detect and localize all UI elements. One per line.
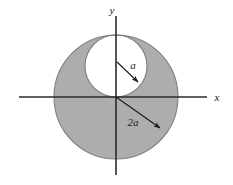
geometry-figure: y x a 2a [0, 0, 233, 185]
small-radius-label: a [130, 59, 136, 71]
x-axis-label: x [214, 91, 220, 103]
y-axis-label: y [109, 4, 115, 16]
figure-canvas: y x a 2a [0, 0, 233, 185]
large-radius-label: 2a [128, 116, 140, 128]
